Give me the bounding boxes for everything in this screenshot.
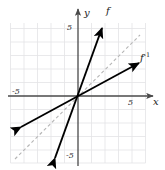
function-f-inverse-label: f-1 (140, 52, 150, 63)
graph-figure: y x 5 5 -5 -5 f f-1 (0, 0, 165, 170)
y-axis-tick-negative-5: -5 (66, 152, 74, 160)
y-axis-label: y (84, 8, 90, 18)
function-f-inverse-line (21, 63, 139, 127)
x-axis-tick-positive-5: 5 (128, 99, 133, 107)
function-f-inverse-label-exponent: -1 (144, 51, 150, 59)
function-f-label: f (106, 6, 110, 16)
y-axis-tick-positive-5: 5 (67, 24, 72, 32)
x-axis-tick-negative-5: -5 (12, 88, 20, 96)
x-axis-label: x (153, 97, 159, 107)
graph-canvas (0, 0, 165, 170)
